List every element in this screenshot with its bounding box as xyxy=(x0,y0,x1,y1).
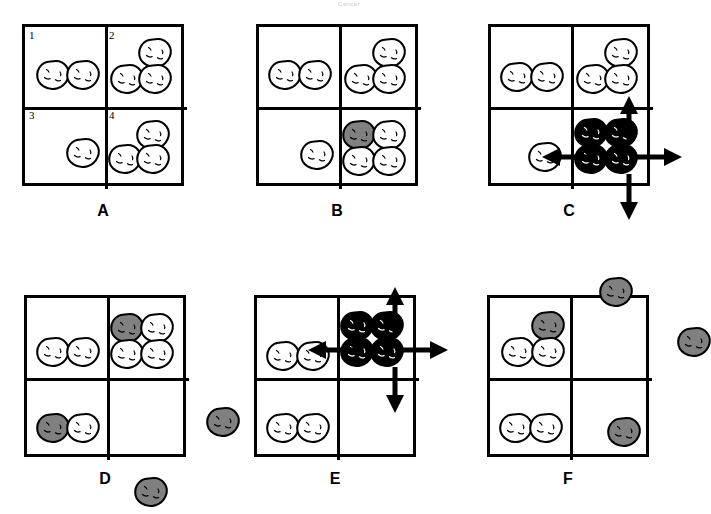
spread-arrow-left xyxy=(542,140,588,174)
panel-d xyxy=(24,295,186,457)
spread-arrow-right xyxy=(402,333,448,367)
grid-divider-horizontal xyxy=(25,107,187,110)
panel-label-f: F xyxy=(548,471,588,487)
cell-blob-white-q3-1 xyxy=(66,413,100,443)
panel-label-a: A xyxy=(83,203,123,219)
grid-divider-horizontal xyxy=(490,378,652,381)
cell-blob-white-q1-1 xyxy=(66,60,100,90)
metastasis-blob-0 xyxy=(599,277,633,307)
cell-blob-white-q1-0 xyxy=(36,337,70,367)
cell-blob-white-q1-0 xyxy=(500,62,534,92)
cell-blob-white-q1-0 xyxy=(266,341,300,371)
figure-header-note: Cancer xyxy=(0,1,698,7)
panel-label-b: B xyxy=(317,203,357,219)
cell-blob-white-q2-2 xyxy=(372,64,406,94)
panel-e xyxy=(254,295,416,457)
cell-blob-white-q2-2 xyxy=(604,64,638,94)
panel-label-c: C xyxy=(549,203,589,219)
cell-blob-white-q4-2 xyxy=(136,144,170,174)
cell-blob-white-q3-0 xyxy=(66,138,100,168)
panel-a: 1234 xyxy=(22,24,184,186)
metastasis-blob-1 xyxy=(677,327,711,357)
cell-blob-gray-q4-0 xyxy=(607,417,641,447)
cell-blob-white-q1-2 xyxy=(531,337,565,367)
cell-blob-white-q2-3 xyxy=(140,339,174,369)
spread-arrow-down xyxy=(612,174,646,220)
cell-blob-white-q4-2 xyxy=(342,146,376,176)
cell-blob-white-q3-0 xyxy=(499,413,533,443)
cell-blob-gray-q3-0 xyxy=(36,413,70,443)
cell-blob-white-q1-1 xyxy=(530,62,564,92)
grid-divider-horizontal xyxy=(27,378,189,381)
spread-arrow-up xyxy=(612,96,646,142)
metastasis-blob-0 xyxy=(206,407,240,437)
cell-blob-white-q1-0 xyxy=(268,60,302,90)
spread-arrow-down xyxy=(378,367,412,413)
quadrant-number-3: 3 xyxy=(29,110,35,121)
cell-blob-white-q3-1 xyxy=(529,413,563,443)
panel-label-e: E xyxy=(315,471,355,487)
panel-label-d: D xyxy=(85,471,125,487)
cell-blob-white-q3-0 xyxy=(266,413,300,443)
cell-blob-white-q1-1 xyxy=(66,337,100,367)
panel-c xyxy=(488,24,650,186)
panel-f xyxy=(487,295,649,457)
cell-blob-white-q2-2 xyxy=(110,339,144,369)
cell-blob-black-q2-3 xyxy=(370,337,404,367)
spread-arrow-up xyxy=(378,287,412,333)
cell-blob-white-q4-3 xyxy=(372,146,406,176)
spread-arrow-left xyxy=(308,333,354,367)
quadrant-number-4: 4 xyxy=(109,110,115,121)
cell-blob-white-q1-0 xyxy=(36,60,70,90)
cell-blob-black-q4-3 xyxy=(604,144,638,174)
cell-blob-white-q1-1 xyxy=(501,337,535,367)
grid-divider-horizontal xyxy=(259,107,421,110)
quadrant-number-1: 1 xyxy=(29,30,35,41)
cell-blob-white-q3-0 xyxy=(300,140,334,170)
panel-b xyxy=(256,24,418,186)
metastasis-blob-1 xyxy=(134,477,168,507)
cell-blob-white-q1-1 xyxy=(298,60,332,90)
cell-blob-white-q3-1 xyxy=(296,413,330,443)
spread-arrow-right xyxy=(636,140,682,174)
quadrant-number-2: 2 xyxy=(109,30,115,41)
cell-blob-white-q2-2 xyxy=(138,64,172,94)
